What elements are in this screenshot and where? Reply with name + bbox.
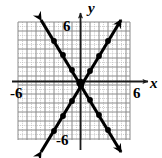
graph-canvas bbox=[0, 0, 162, 158]
y-axis-label: y bbox=[88, 1, 95, 16]
coordinate-plane-graph: y x 6 -6 -6 6 bbox=[0, 0, 162, 158]
x-tick-label-positive-six: 6 bbox=[133, 86, 141, 101]
y-tick-label-positive-six: 6 bbox=[63, 19, 71, 34]
x-tick-label-negative-six: -6 bbox=[10, 86, 23, 101]
x-axis-label: x bbox=[150, 76, 158, 91]
y-tick-label-negative-six: -6 bbox=[56, 133, 69, 148]
intersection-point bbox=[76, 79, 84, 87]
